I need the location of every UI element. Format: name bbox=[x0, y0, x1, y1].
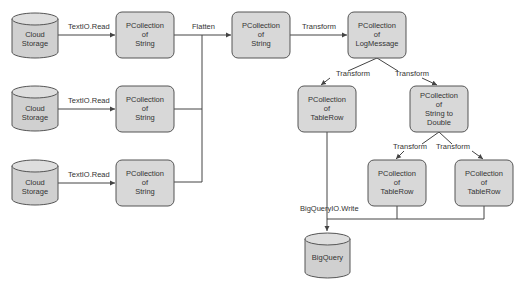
pcollection-string-to-double: PCollection of String to Double bbox=[410, 86, 468, 132]
svg-text:PCollection: PCollection bbox=[308, 95, 346, 104]
pcollection-string-2: PCollection of String bbox=[116, 86, 174, 132]
label-read-3: TextIO.Read bbox=[68, 170, 110, 179]
edge-split2-left-b bbox=[396, 151, 404, 159]
svg-text:of: of bbox=[394, 178, 401, 187]
svg-text:PCollection: PCollection bbox=[126, 169, 164, 178]
cloud-storage-2: Cloud Storage bbox=[12, 86, 58, 131]
svg-text:of: of bbox=[436, 100, 443, 109]
svg-text:of: of bbox=[481, 178, 488, 187]
svg-text:String to: String to bbox=[425, 109, 453, 118]
svg-text:TableRow: TableRow bbox=[468, 187, 502, 196]
svg-text:Cloud: Cloud bbox=[25, 104, 45, 113]
svg-text:Cloud: Cloud bbox=[25, 30, 45, 39]
database-icon bbox=[12, 13, 58, 25]
edge-split2-right-b bbox=[472, 151, 483, 159]
svg-text:TableRow: TableRow bbox=[311, 113, 345, 122]
bigquery: BigQuery bbox=[305, 233, 350, 278]
svg-text:BigQuery: BigQuery bbox=[312, 253, 344, 262]
pcollection-tablerow-mid: PCollection of TableRow bbox=[368, 160, 426, 206]
edge-tablerow-right-write bbox=[397, 206, 484, 219]
svg-text:of: of bbox=[258, 30, 265, 39]
svg-text:Storage: Storage bbox=[22, 113, 48, 122]
label-read-2: TextIO.Read bbox=[68, 96, 110, 105]
pcollection-tablerow-left: PCollection of TableRow bbox=[298, 86, 356, 132]
pcollection-string-flattened: PCollection of String bbox=[232, 12, 290, 58]
svg-text:of: of bbox=[142, 104, 149, 113]
svg-text:PCollection: PCollection bbox=[465, 169, 503, 178]
label-transform-logmessage: Transform bbox=[302, 22, 336, 31]
database-icon bbox=[305, 233, 350, 245]
pcollection-string-3: PCollection of String bbox=[116, 160, 174, 206]
svg-text:PCollection: PCollection bbox=[126, 95, 164, 104]
pcollection-string-1: PCollection of String bbox=[116, 12, 174, 58]
svg-text:Double: Double bbox=[427, 118, 451, 127]
edge-split-right-b bbox=[422, 78, 437, 85]
database-icon bbox=[12, 86, 58, 98]
svg-text:String: String bbox=[135, 39, 155, 48]
pipeline-diagram: TextIO.Read TextIO.Read TextIO.Read Flat… bbox=[0, 0, 520, 284]
label-transform-tablerow: Transform bbox=[336, 69, 370, 78]
cloud-storage-3: Cloud Storage bbox=[12, 160, 58, 205]
svg-text:String: String bbox=[135, 113, 155, 122]
database-icon bbox=[12, 160, 58, 172]
label-read-1: TextIO.Read bbox=[68, 22, 110, 31]
label-bigquery-write: BigQueryIO.Write bbox=[300, 204, 359, 213]
svg-text:of: of bbox=[374, 30, 381, 39]
svg-text:PCollection: PCollection bbox=[242, 21, 280, 30]
svg-text:of: of bbox=[142, 178, 149, 187]
svg-text:PCollection: PCollection bbox=[126, 21, 164, 30]
label-transform-string-double: Transform bbox=[395, 69, 429, 78]
svg-text:Storage: Storage bbox=[22, 39, 48, 48]
svg-text:LogMessage: LogMessage bbox=[356, 39, 399, 48]
cloud-storage-1: Cloud Storage bbox=[12, 13, 58, 58]
edge-split-left-b bbox=[321, 78, 330, 85]
svg-text:of: of bbox=[324, 104, 331, 113]
svg-text:String: String bbox=[251, 39, 271, 48]
svg-text:PCollection: PCollection bbox=[378, 169, 416, 178]
pcollection-tablerow-right: PCollection of TableRow bbox=[455, 160, 513, 206]
svg-text:Storage: Storage bbox=[22, 187, 48, 196]
label-transform-tablerow-mid: Transform bbox=[393, 142, 427, 151]
svg-text:of: of bbox=[142, 30, 149, 39]
svg-text:Cloud: Cloud bbox=[25, 178, 45, 187]
svg-text:TableRow: TableRow bbox=[381, 187, 415, 196]
label-transform-tablerow-right: Transform bbox=[436, 142, 470, 151]
svg-text:String: String bbox=[135, 187, 155, 196]
svg-text:PCollection: PCollection bbox=[420, 91, 458, 100]
pcollection-logmessage: PCollection of LogMessage bbox=[348, 12, 406, 58]
label-flatten: Flatten bbox=[192, 22, 215, 31]
svg-text:PCollection: PCollection bbox=[358, 21, 396, 30]
